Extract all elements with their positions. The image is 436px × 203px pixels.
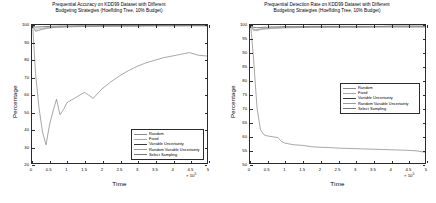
- x-tick-label: 2.5: [117, 167, 123, 172]
- y-tick-mark: [423, 39, 426, 40]
- y-tick-mark: [32, 60, 35, 61]
- x-tick-mark: [67, 25, 68, 28]
- x-axis-exponent-left: × 105: [186, 172, 196, 178]
- y-tick-mark: [423, 165, 426, 166]
- x-tick-mark: [121, 161, 122, 164]
- y-tick-mark: [32, 43, 35, 44]
- y-tick-mark: [205, 78, 208, 79]
- y-tick-label: 90: [24, 39, 29, 44]
- x-tick-mark: [174, 25, 175, 28]
- x-tick-mark: [321, 25, 322, 28]
- y-tick-mark: [250, 151, 253, 152]
- x-tick-mark: [374, 161, 375, 164]
- chart-title-left: Prequential Accuracy on KDD99 Dataset wi…: [0, 2, 218, 15]
- x-tick-mark: [374, 25, 375, 28]
- chart-panel-prequential-detection-rate: Prequential Detection Rate on KDD99 Data…: [218, 0, 436, 203]
- x-tick-label: 5: [207, 167, 209, 172]
- legend-color-swatch: [134, 139, 147, 140]
- y-tick-mark: [205, 148, 208, 149]
- x-tick-label: 0.5: [264, 167, 270, 172]
- x-tick-mark: [339, 161, 340, 164]
- y-tick-mark: [423, 137, 426, 138]
- x-tick-mark: [250, 25, 251, 28]
- y-tick-label: 40: [24, 127, 29, 132]
- x-tick-mark: [209, 161, 210, 164]
- x-tick-label: 2.5: [335, 167, 341, 172]
- y-axis-ticklabels-right: 50556065707580859095100: [231, 24, 247, 164]
- x-axis-label-left: Time: [31, 180, 208, 187]
- x-tick-mark: [427, 161, 428, 164]
- y-tick-mark: [423, 109, 426, 110]
- y-tick-label: 100: [22, 22, 29, 27]
- x-tick-label: 1.5: [299, 167, 305, 172]
- x-axis-exponent-right: × 105: [404, 172, 414, 178]
- x-tick-mark: [103, 161, 104, 164]
- y-tick-label: 100: [240, 22, 247, 27]
- x-tick-mark: [339, 25, 340, 28]
- legend-color-swatch: [134, 149, 147, 150]
- y-tick-mark: [250, 81, 253, 82]
- x-tick-mark: [268, 161, 269, 164]
- y-tick-mark: [32, 148, 35, 149]
- y-tick-mark: [32, 165, 35, 166]
- legend-color-swatch: [343, 103, 356, 104]
- y-tick-label: 70: [242, 106, 247, 111]
- y-tick-mark: [32, 95, 35, 96]
- legend-item: Select Sampling: [343, 106, 418, 111]
- x-tick-mark: [50, 161, 51, 164]
- y-tick-mark: [423, 67, 426, 68]
- x-tick-mark: [174, 161, 175, 164]
- chart-title-left-line2: Budgeting Strategies (Hoeffding Tree, 10…: [0, 8, 218, 14]
- y-tick-mark: [32, 113, 35, 114]
- x-tick-mark: [285, 161, 286, 164]
- x-tick-mark: [121, 25, 122, 28]
- y-tick-label: 55: [242, 148, 247, 153]
- y-tick-label: 20: [24, 162, 29, 167]
- x-tick-label: 3: [136, 167, 138, 172]
- legend-right: RandomFixedVariable UncertaintyRandom Va…: [340, 83, 420, 114]
- y-tick-mark: [423, 81, 426, 82]
- y-tick-mark: [250, 39, 253, 40]
- y-tick-mark: [250, 165, 253, 166]
- legend-label: Select Sampling: [149, 153, 177, 157]
- y-tick-label: 75: [242, 92, 247, 97]
- x-tick-label: 3: [354, 167, 356, 172]
- x-tick-mark: [156, 161, 157, 164]
- x-tick-mark: [191, 161, 192, 164]
- x-tick-label: 3.5: [152, 167, 158, 172]
- x-axis-exponent-power-left: 5: [194, 172, 196, 176]
- y-tick-mark: [205, 25, 208, 26]
- x-tick-mark: [209, 25, 210, 28]
- y-axis-ticklabels-left: 2030405060708090100: [13, 24, 29, 164]
- y-tick-mark: [205, 165, 208, 166]
- x-tick-mark: [138, 161, 139, 164]
- y-tick-mark: [250, 53, 253, 54]
- y-tick-label: 30: [24, 144, 29, 149]
- chart-title-right-line1: Prequential Detection Rate on KDD99 Data…: [264, 2, 389, 7]
- legend-color-swatch: [134, 144, 147, 145]
- x-tick-mark: [409, 25, 410, 28]
- y-tick-mark: [205, 60, 208, 61]
- x-tick-mark: [156, 25, 157, 28]
- x-axis-exponent-power-right: 5: [412, 172, 414, 176]
- chart-panel-prequential-accuracy: Prequential Accuracy on KDD99 Dataset wi…: [0, 0, 218, 203]
- y-tick-mark: [423, 123, 426, 124]
- legend-color-swatch: [343, 108, 356, 109]
- y-tick-mark: [250, 95, 253, 96]
- x-tick-label: 0: [30, 167, 32, 172]
- legend-item: Select Sampling: [134, 152, 202, 157]
- x-tick-mark: [138, 25, 139, 28]
- legend-color-swatch: [343, 98, 356, 99]
- x-tick-label: 4: [171, 167, 173, 172]
- x-tick-label: 1: [283, 167, 285, 172]
- x-axis-label-right: Time: [249, 180, 426, 187]
- figure-container: Prequential Accuracy on KDD99 Dataset wi…: [0, 0, 436, 203]
- x-tick-label: 0.5: [46, 167, 52, 172]
- chart-title-left-line1: Prequential Accuracy on KDD99 Dataset wi…: [52, 2, 165, 7]
- x-tick-label: 4: [389, 167, 391, 172]
- x-tick-mark: [321, 161, 322, 164]
- y-tick-label: 80: [242, 78, 247, 83]
- y-tick-mark: [423, 25, 426, 26]
- x-tick-mark: [32, 161, 33, 164]
- legend-label: Variable Uncertainty: [358, 96, 393, 100]
